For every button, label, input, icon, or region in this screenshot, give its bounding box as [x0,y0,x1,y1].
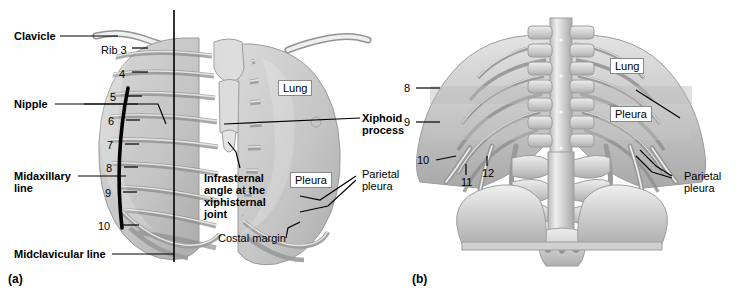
posterior-rib-number-9: 9 [404,116,410,128]
label-costal-margin: Costal margin [218,232,286,244]
rib-number-9: 9 [105,187,111,199]
panel-b-artwork [416,18,706,266]
label-lung-anterior: Lung [278,80,312,96]
posterior-rib-number-11: 11 [461,176,472,188]
rib-number-10: 10 [98,220,110,232]
rib-number-8: 8 [106,162,112,174]
posterior-rib-number-10: 10 [417,154,429,166]
label-pleura-anterior: Pleura [290,172,332,188]
label-infrasternal-angle: Infrasternal angle at the xiphisternal j… [204,172,266,220]
rib-number-7: 7 [107,139,113,151]
label-clavicle: Clavicle [14,30,56,42]
label-midaxillary-line: Midaxillary line [14,170,71,194]
rib-number-4: 4 [119,68,125,80]
label-parietal-pleura-anterior: Parietal pleura [362,168,399,192]
anatomy-figure: Clavicle Nipple Midaxillary line Midclav… [0,0,741,297]
label-pleura-posterior: Pleura [610,106,652,122]
label-xiphoid-process: Xiphoid process [362,112,404,136]
label-midclavicular-line: Midclavicular line [14,248,106,260]
rib-number-5: 5 [110,91,116,103]
rib-number-3: Rib 3 [101,44,127,56]
panel-caption-b: (b) [412,272,427,286]
label-parietal-pleura-posterior: Parietal pleura [684,170,721,194]
posterior-rib-number-8: 8 [404,82,410,94]
label-lung-posterior: Lung [610,58,644,74]
panel-caption-a: (a) [8,272,23,286]
label-nipple: Nipple [14,98,48,110]
rib-number-6: 6 [108,115,114,127]
posterior-rib-number-12: 12 [482,167,494,179]
